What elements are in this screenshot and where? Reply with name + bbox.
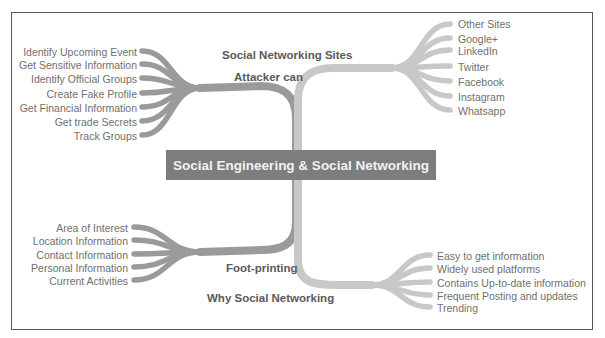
leaf-item[interactable]: Twitter [458, 61, 489, 73]
leaf-item[interactable]: Get trade Secrets [55, 116, 137, 128]
leaf-item[interactable]: Track Groups [74, 130, 137, 142]
leaf-item[interactable]: Identify Upcoming Event [23, 46, 137, 58]
central-topic-node[interactable]: Social Engineering & Social Networking [166, 150, 436, 180]
leaf-item[interactable]: Google+ [458, 33, 498, 45]
leaf-item[interactable]: Trending [437, 302, 478, 314]
leaf-item[interactable]: Other Sites [458, 18, 511, 30]
leaf-item[interactable]: Identify Official Groups [31, 73, 137, 85]
leaf-item[interactable]: LinkedIn [458, 45, 498, 57]
leaf-item[interactable]: Widely used platforms [437, 263, 540, 275]
leaf-item[interactable]: Area of Interest [56, 222, 128, 234]
connector-why-trunk [298, 180, 372, 285]
leaf-item[interactable]: Location Information [33, 235, 128, 247]
leaf-item[interactable]: Create Fake Profile [47, 88, 137, 100]
leaf-item[interactable]: Get Sensitive Information [19, 59, 137, 71]
leaf-item[interactable]: Facebook [458, 76, 504, 88]
branch-label-attacker-can[interactable]: Attacker can [234, 71, 303, 83]
leaf-item[interactable]: Personal Information [31, 262, 128, 274]
leaf-item[interactable]: Contains Up-to-date information [437, 277, 586, 289]
branch-label-social-networking-sites[interactable]: Social Networking Sites [222, 49, 352, 61]
central-topic-label: Social Engineering & Social Networking [173, 158, 429, 173]
leaf-item[interactable]: Get Financial Information [20, 102, 137, 114]
branch-label-foot-printing[interactable]: Foot-printing [226, 262, 298, 274]
connector-attacker-can-trunk [200, 86, 296, 150]
leaf-item[interactable]: Instagram [458, 91, 505, 103]
connector-foot-printing-trunk [200, 180, 296, 252]
leaf-item[interactable]: Current Activities [49, 275, 128, 287]
leaf-item[interactable]: Contact Information [36, 249, 128, 261]
branch-label-why-social-networking[interactable]: Why Social Networking [207, 292, 334, 304]
leaf-item[interactable]: Easy to get information [437, 250, 544, 262]
leaf-item[interactable]: Frequent Posting and updates [437, 290, 578, 302]
connector-sites-trunk [298, 68, 392, 150]
leaf-item[interactable]: Whatsapp [458, 105, 505, 117]
